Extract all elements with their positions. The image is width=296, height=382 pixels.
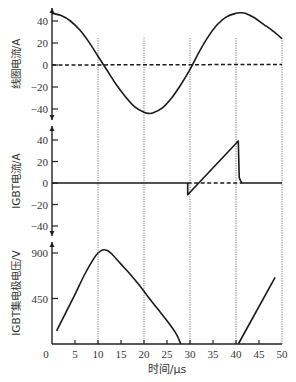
arrow-down-icon — [50, 115, 55, 120]
vertical-dotted-lines — [98, 38, 282, 344]
series-line — [57, 250, 181, 344]
x-tick-label: 20 — [139, 348, 151, 360]
y-tick-label: 0 — [43, 59, 49, 71]
y-tick-label: 20 — [37, 156, 49, 168]
y-axis-label: IGBT集电极电压/V — [10, 249, 22, 335]
x-tick-label: 45 — [254, 348, 266, 360]
x-tick-label: 40 — [231, 348, 243, 360]
series-line — [52, 141, 282, 195]
series-line — [52, 13, 282, 114]
panel-coil-current: 40200−20−40线圈电流/A — [10, 8, 282, 120]
y-tick-label: 40 — [37, 134, 49, 146]
arrow-up-icon — [50, 8, 55, 13]
y-tick-label: −40 — [31, 220, 49, 232]
y-tick-label: 40 — [37, 15, 49, 27]
arrow-up-icon — [50, 126, 55, 131]
chart-panels: 40200−20−40线圈电流/A40200−20−40IGBT电流/A9004… — [10, 8, 282, 344]
x-axis-label: 时间/µs — [148, 363, 187, 376]
y-tick-label: 0 — [43, 177, 49, 189]
x-tick-label: 5 — [72, 348, 78, 360]
y-tick-label: −20 — [31, 81, 49, 93]
x-tick-label: 10 — [93, 348, 105, 360]
waveform-chart: 40200−20−40线圈电流/A40200−20−40IGBT电流/A9004… — [0, 0, 296, 382]
y-axis-label: 线圈电流/A — [10, 38, 22, 90]
panel-igbt-current: 40200−20−40IGBT电流/A — [10, 126, 282, 236]
y-axis-label: IGBT电流/A — [10, 152, 22, 208]
x-axis: 05101520253035404550 — [43, 340, 288, 360]
y-tick-label: −20 — [31, 199, 49, 211]
x-tick-label: 0 — [43, 348, 49, 360]
arrow-down-icon — [50, 231, 55, 236]
y-tick-label: 900 — [32, 247, 49, 259]
x-tick-label: 30 — [185, 348, 197, 360]
y-tick-label: −40 — [31, 103, 49, 115]
x-tick-label: 25 — [162, 348, 174, 360]
y-tick-label: 20 — [37, 37, 49, 49]
arrow-up-icon — [50, 242, 55, 247]
x-tick-label: 50 — [277, 348, 289, 360]
series-line — [238, 277, 275, 344]
y-tick-label: 450 — [32, 293, 49, 305]
panel-igbt-vce: 900450IGBT集电极电压/V — [10, 242, 275, 344]
x-tick-label: 35 — [208, 348, 220, 360]
series-line — [52, 64, 282, 65]
x-tick-label: 15 — [116, 348, 128, 360]
